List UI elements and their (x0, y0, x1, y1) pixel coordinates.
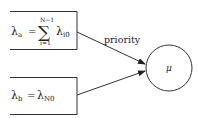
sum-upper-limit: N−1 (40, 16, 54, 23)
lambda-a-symbol: λa (11, 25, 22, 39)
lambda-n0-symbol: λN0 (37, 89, 55, 103)
mu-label: μ (166, 63, 172, 73)
sum-lower-limit: i=1 (40, 39, 51, 46)
lambda-b-box: λb = λN0 (10, 78, 77, 115)
equals-sign: = (28, 26, 36, 37)
edge-priority: priority (77, 32, 145, 64)
equals-sign: = (27, 90, 35, 101)
diagram-canvas: λa = ∑ N−1 i=1 λi0 λb = λN0 priority μ (0, 0, 198, 118)
priority-label: priority (104, 34, 141, 45)
server-node: μ (146, 45, 192, 91)
lambda-b-symbol: λb (11, 89, 23, 103)
lambda-i0-symbol: λi0 (56, 25, 70, 39)
lambda-a-box: λa = ∑ N−1 i=1 λi0 (10, 12, 77, 50)
edge-lambda-b (77, 71, 145, 95)
